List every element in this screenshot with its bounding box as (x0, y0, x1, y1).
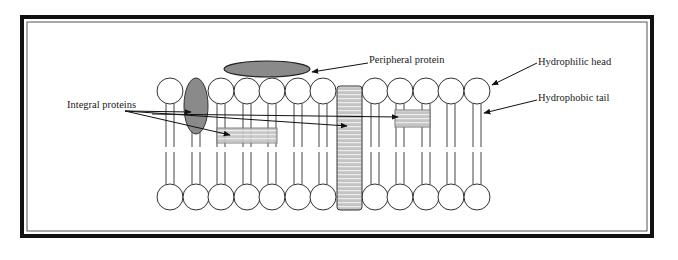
label-integral-proteins: Integral proteins (67, 99, 136, 110)
peripheral-protein (224, 61, 310, 77)
head-bottom (234, 184, 260, 210)
head-bottom (208, 184, 234, 210)
head-top (157, 78, 183, 104)
head-bottom (285, 184, 311, 210)
head-bottom (157, 184, 183, 210)
head-bottom (310, 184, 336, 210)
head-bottom (387, 184, 413, 210)
integral-protein-transmembrane (337, 86, 362, 210)
head-top (438, 78, 464, 104)
head-top (464, 78, 490, 104)
head-bottom (464, 184, 490, 210)
head-top (259, 78, 285, 104)
integral-protein-right-block (395, 110, 430, 127)
head-bottom (413, 184, 439, 210)
head-bottom (183, 184, 209, 210)
head-top (310, 78, 336, 104)
head-top (234, 78, 260, 104)
head-top (208, 78, 234, 104)
integral-protein-left-block (217, 128, 277, 143)
head-top (413, 78, 439, 104)
head-top (387, 78, 413, 104)
label-hydrophilic-head: Hydrophilic head (538, 56, 612, 67)
label-hydrophobic-tail: Hydrophobic tail (538, 92, 610, 103)
head-bottom (259, 184, 285, 210)
label-peripheral-protein: Peripheral protein (369, 54, 445, 65)
head-top (285, 78, 311, 104)
membrane-diagram: Peripheral protein Hydrophilic head Hydr… (0, 0, 678, 260)
head-top (362, 78, 388, 104)
head-bottom (438, 184, 464, 210)
head-bottom (362, 184, 388, 210)
